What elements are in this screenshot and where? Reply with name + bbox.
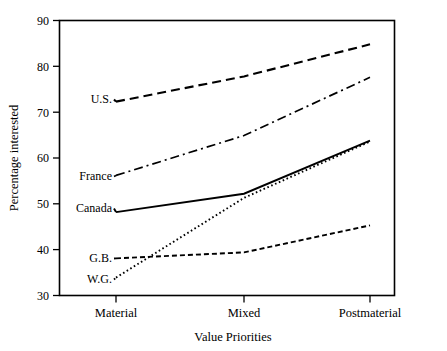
y-axis-title: Percentage interested bbox=[7, 104, 21, 211]
series-label-wg: W.G. bbox=[87, 272, 112, 286]
y-tick-label-50: 50 bbox=[37, 197, 49, 211]
y-tick-label-60: 60 bbox=[37, 151, 49, 165]
x-tick-label-postmaterial: Postmaterial bbox=[339, 306, 402, 320]
x-tick-label-mixed: Mixed bbox=[228, 306, 261, 320]
y-tick-label-90: 90 bbox=[37, 14, 49, 28]
x-tick-label-material: Material bbox=[95, 306, 138, 320]
x-axis-title: Value Priorities bbox=[194, 330, 272, 344]
chart-background bbox=[0, 0, 447, 351]
y-tick-label-40: 40 bbox=[37, 243, 49, 257]
chart-container: 90 80 70 60 50 40 30 Percentage interest… bbox=[0, 0, 447, 351]
series-label-gb: G.B. bbox=[89, 251, 112, 265]
y-tick-label-70: 70 bbox=[37, 106, 49, 120]
leader-us bbox=[114, 100, 116, 102]
series-label-us: U.S. bbox=[91, 92, 112, 106]
series-label-canada: Canada bbox=[76, 201, 113, 215]
value-priorities-line-chart: 90 80 70 60 50 40 30 Percentage interest… bbox=[0, 0, 447, 351]
y-tick-label-30: 30 bbox=[37, 289, 49, 303]
y-tick-label-80: 80 bbox=[37, 60, 49, 74]
leader-france bbox=[114, 175, 116, 176]
series-label-france: France bbox=[79, 169, 112, 183]
